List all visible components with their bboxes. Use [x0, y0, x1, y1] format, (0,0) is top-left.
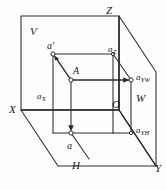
- foot-label-ayh: aYH: [136, 126, 149, 135]
- foot-label-ayw-sub: YW: [141, 76, 150, 83]
- foot-label-ayh-sub: YH: [141, 129, 149, 136]
- point-marker-aYH-foot: [129, 131, 132, 134]
- arrowhead-to-ap: [54, 55, 59, 60]
- axis-label-o: O: [112, 99, 120, 110]
- axis-label-x: X: [9, 104, 16, 115]
- plane-w-outline: [119, 16, 156, 166]
- point-marker-aYW: [129, 78, 133, 82]
- foot-label-az: aZ: [108, 45, 116, 54]
- box-edge-a-to-h-corner: [71, 133, 89, 159]
- point-label-ap: a′: [47, 41, 54, 51]
- axis-label-z: Z: [106, 5, 112, 16]
- axis-y-line: [119, 110, 156, 166]
- foot-label-ax-sub: X: [42, 95, 46, 102]
- foot-label-ax: aX: [37, 92, 45, 101]
- box-edge-top-right-diagonal: [113, 54, 131, 80]
- axis-label-y: Y: [155, 163, 161, 174]
- point-marker-ap: [51, 52, 55, 56]
- arrow-A-to-ap-shaft: [57, 59, 72, 81]
- foot-label-ayh-base: a: [136, 125, 141, 135]
- point-marker-A: [69, 78, 73, 82]
- point-label-a: a: [67, 141, 72, 151]
- projection-diagram-figure: V H W X Y Z O a′ A a aX aZ aYW aYH: [0, 0, 166, 190]
- foot-label-ayw-base: a: [136, 72, 141, 82]
- foot-label-ayw: aYW: [136, 73, 150, 82]
- foot-label-az-sub: Z: [113, 48, 117, 55]
- point-label-A: A: [73, 66, 79, 76]
- plane-label-h: H: [72, 160, 80, 171]
- point-marker-a: [69, 131, 73, 135]
- foot-label-az-base: a: [108, 44, 113, 54]
- plane-label-w: W: [136, 93, 145, 104]
- foot-label-ax-base: a: [37, 91, 42, 101]
- plane-label-v: V: [30, 26, 37, 37]
